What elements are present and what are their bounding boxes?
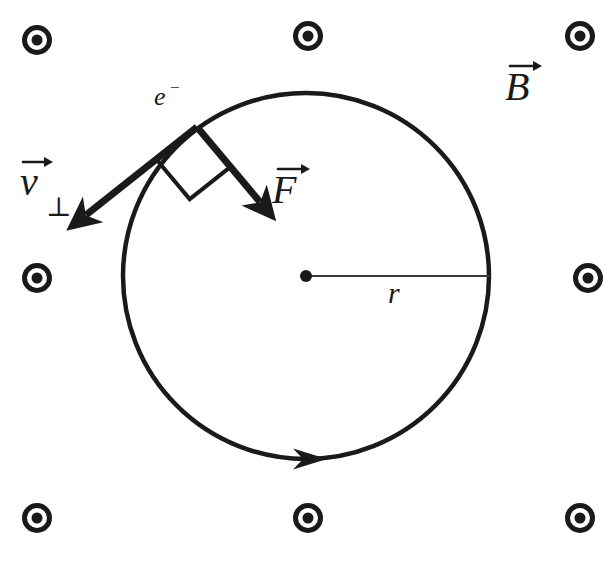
velocity-label-letter: v [20, 159, 38, 204]
field-out-of-page-dot-core [32, 273, 43, 284]
velocity-vector-arrow [86, 127, 197, 215]
magnetic-field-label: B [505, 61, 542, 109]
field-out-of-page-dot-core [303, 513, 314, 524]
field-out-of-page-dot-core [303, 31, 314, 42]
magnetic-field-label-letter: B [505, 64, 529, 109]
electron-label: e − [154, 78, 180, 111]
force-vector-arrow [197, 127, 260, 202]
force-label-vector-arrowhead [301, 164, 310, 174]
velocity-label: v ⊥ [20, 157, 71, 222]
electron-label-letter: e [154, 82, 166, 111]
right-angle-marker [156, 159, 230, 199]
electron-label-charge-sign: − [170, 78, 180, 97]
velocity-label-vector-arrowhead [44, 157, 53, 167]
field-out-of-page-dot-core [583, 273, 594, 284]
velocity-label-subscript: ⊥ [46, 192, 71, 222]
radius-label: r [388, 276, 400, 309]
field-out-of-page-dot-core [575, 513, 586, 524]
magnetic-field-label-vector-arrowhead [533, 61, 542, 71]
force-label-letter: F [271, 167, 297, 212]
field-out-of-page-dot-core [575, 31, 586, 42]
force-label: F [271, 164, 310, 212]
field-out-of-page-dot-core [32, 35, 43, 46]
field-out-of-page-dot-core [32, 513, 43, 524]
circle-center-dot [300, 270, 312, 282]
physics-diagram-canvas: e − v ⊥ F B r [0, 0, 614, 562]
diagram-svg: e − v ⊥ F B r [0, 0, 614, 562]
